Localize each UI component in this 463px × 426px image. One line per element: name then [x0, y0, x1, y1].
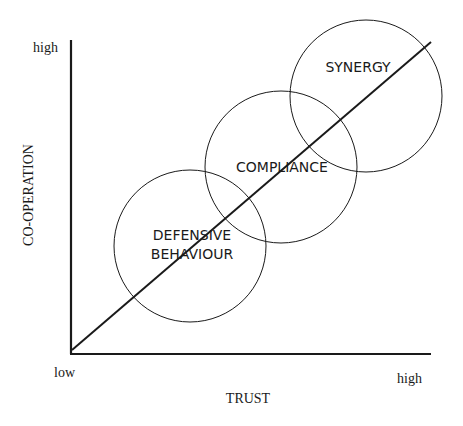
- trend-line: [72, 42, 431, 350]
- trust-cooperation-diagram: DEFENSIVE BEHAVIOUR COMPLIANCE SYNERGY h…: [0, 0, 463, 426]
- x-axis-title: TRUST: [226, 391, 271, 406]
- y-axis-title: CO-OPERATION: [21, 144, 36, 246]
- defensive-label-line1: DEFENSIVE: [153, 227, 231, 243]
- x-axis-low-label: low: [54, 365, 76, 380]
- y-axis-high-label: high: [33, 40, 58, 55]
- synergy-label: SYNERGY: [325, 59, 391, 75]
- compliance-label: COMPLIANCE: [236, 159, 328, 175]
- x-axis-high-label: high: [397, 371, 422, 386]
- synergy-circle: [290, 20, 442, 172]
- defensive-label-line2: BEHAVIOUR: [151, 246, 234, 262]
